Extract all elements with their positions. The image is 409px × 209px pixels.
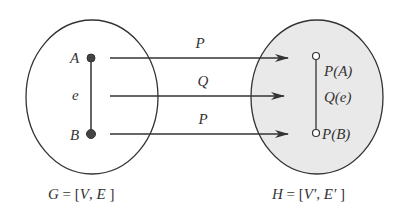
edge-qe-label: Q(e) bbox=[324, 89, 351, 106]
edge-e-label: e bbox=[72, 87, 79, 103]
graph-homomorphism-diagram: A e B P Q P P(A) Q(e) P(B) G = [V, E ] H… bbox=[0, 0, 409, 209]
graph-h-caption: H = [V′, E′ ] bbox=[271, 186, 345, 202]
vertex-pa-label: P(A) bbox=[323, 63, 352, 80]
mapping-label-p-bottom: P bbox=[197, 111, 207, 127]
graph-g-region bbox=[26, 20, 158, 174]
mapping-label-p-top: P bbox=[194, 35, 204, 51]
vertex-pb-label: P(B) bbox=[321, 126, 350, 143]
mapping-label-q: Q bbox=[198, 73, 209, 89]
vertex-b-label: B bbox=[70, 127, 79, 143]
vertex-b-node bbox=[87, 130, 96, 139]
vertex-a-label: A bbox=[69, 50, 80, 66]
vertex-pb-node bbox=[313, 130, 320, 137]
vertex-pa-node bbox=[313, 53, 320, 60]
graph-g-caption: G = [V, E ] bbox=[48, 186, 114, 202]
graph-h-region bbox=[251, 20, 383, 174]
vertex-a-node bbox=[87, 54, 95, 62]
